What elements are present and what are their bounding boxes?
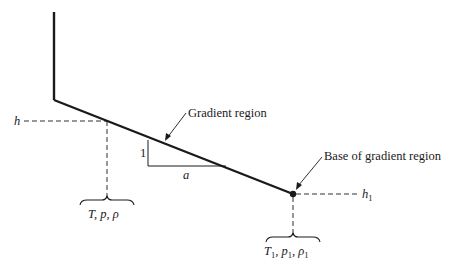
gradient-region-diagram: h T, p, ρ 1 a Gradient region h1 Base of…	[0, 0, 462, 272]
base-point-dot	[290, 191, 296, 197]
slope-run-label: a	[183, 168, 189, 182]
gradient-region-label: Gradient region	[188, 106, 268, 120]
gradient-region-arrow	[167, 113, 186, 138]
state-label-h: T, p, ρ	[88, 207, 119, 221]
state-label-h1: T1, p1, ρ1	[264, 244, 308, 260]
base-arrow	[298, 157, 322, 186]
brace-h	[80, 196, 134, 205]
h1-label: h1	[362, 187, 373, 203]
brace-h1	[266, 233, 320, 242]
h-label: h	[14, 114, 20, 128]
base-of-gradient-region-label: Base of gradient region	[324, 149, 442, 163]
base-arrowhead	[296, 182, 302, 190]
slope-rise-label: 1	[140, 146, 146, 160]
